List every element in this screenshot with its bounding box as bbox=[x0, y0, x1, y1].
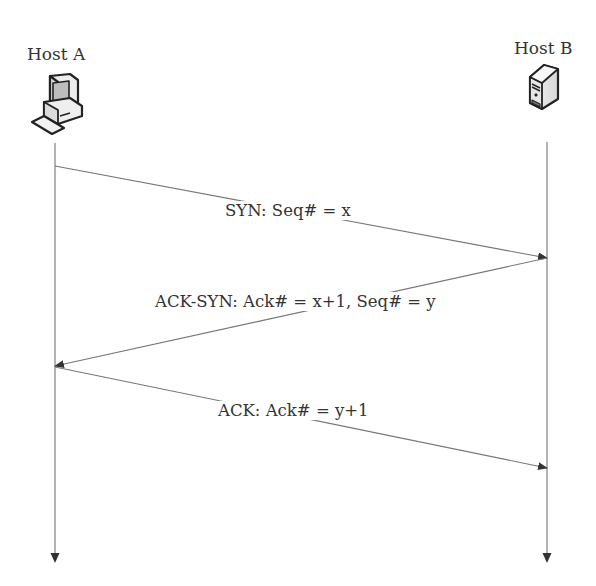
host-a-label: Host A bbox=[27, 44, 85, 64]
ack-syn-arrow bbox=[55, 258, 547, 366]
sequence-diagram: Host A Host B SYN: Seq# = x ACK-SYN: Ack… bbox=[0, 0, 596, 586]
ack-label: ACK: Ack# = y+1 bbox=[215, 401, 372, 420]
host-b-label: Host B bbox=[514, 38, 573, 58]
lifeline-host-a bbox=[51, 143, 60, 563]
syn-label: SYN: Seq# = x bbox=[222, 201, 354, 220]
lifeline-host-b bbox=[543, 142, 552, 563]
ack-syn-label: ACK-SYN: Ack# = x+1, Seq# = y bbox=[152, 292, 439, 311]
server-icon bbox=[530, 65, 558, 109]
desktop-computer-icon bbox=[32, 74, 82, 134]
